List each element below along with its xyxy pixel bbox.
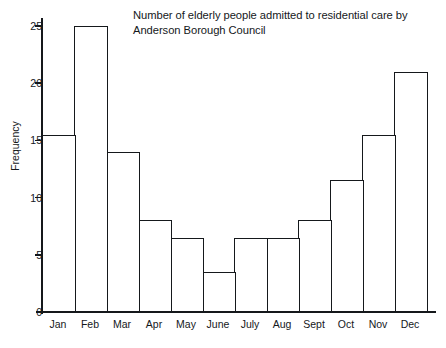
y-tick-mark: [35, 140, 42, 142]
y-tick-mark: [35, 25, 42, 27]
bar-apr: [138, 220, 172, 312]
bar-aug: [266, 238, 300, 312]
x-tick-label-oct: Oct: [338, 318, 354, 330]
bar-jan: [42, 135, 76, 312]
bar-may: [170, 238, 204, 312]
x-tick-label-mar: Mar: [113, 318, 131, 330]
plot-area: [42, 26, 426, 312]
x-tick-label-dec: Dec: [401, 318, 420, 330]
histogram-chart: Number of elderly people admitted to res…: [0, 0, 446, 348]
y-tick-mark: [35, 197, 42, 199]
bar-sept: [298, 220, 332, 312]
bar-nov: [362, 135, 396, 312]
x-tick-label-apr: Apr: [146, 318, 162, 330]
bar-july: [234, 238, 268, 312]
bar-dec: [394, 72, 428, 312]
bar-mar: [106, 152, 140, 312]
x-tick-label-nov: Nov: [369, 318, 388, 330]
x-tick-label-may: May: [176, 318, 196, 330]
bar-june: [202, 272, 236, 312]
x-tick-label-sept: Sept: [303, 318, 325, 330]
x-tick-label-jan: Jan: [50, 318, 67, 330]
bar-oct: [330, 180, 364, 312]
x-tick-label-june: June: [207, 318, 230, 330]
x-tick-label-july: July: [241, 318, 260, 330]
bar-feb: [74, 26, 108, 312]
x-tick-label-aug: Aug: [273, 318, 292, 330]
x-tick-label-feb: Feb: [81, 318, 99, 330]
y-tick-mark: [35, 82, 42, 84]
y-tick-label: 0: [16, 306, 42, 318]
y-tick-mark: [35, 254, 42, 256]
